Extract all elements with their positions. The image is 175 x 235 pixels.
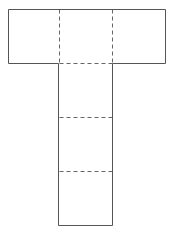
- cube-net-diagram: [0, 0, 175, 235]
- net-outline: [9, 10, 166, 226]
